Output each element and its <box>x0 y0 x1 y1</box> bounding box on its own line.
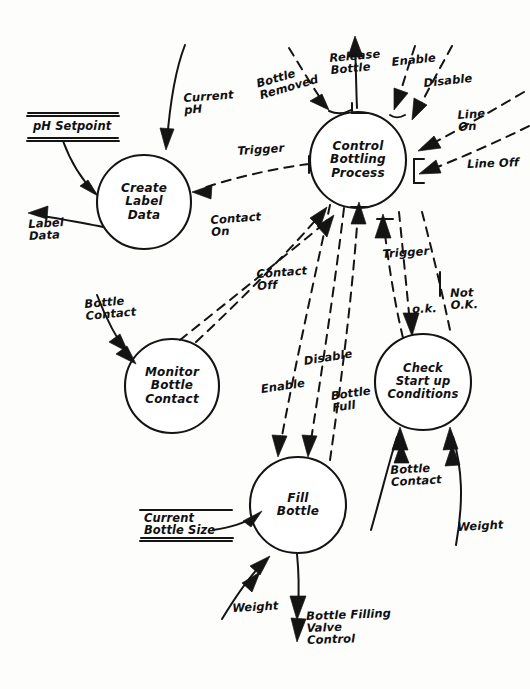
flow-trigger-to-create-label <box>192 156 309 199</box>
flow-label-release-bottle: Release Bottle <box>329 48 382 77</box>
flow-label-label-data: Label Data <box>28 216 65 242</box>
process-label-monitor-bottle-contact: Monitor Bottle Contact <box>125 366 219 406</box>
flow-bottle-full <box>330 202 367 460</box>
store-label-ph-setpoint: pH Setpoint <box>33 120 111 132</box>
dataflow-diagram-canvas: Create Label Data Control Bottling Proce… <box>0 0 530 689</box>
flow-label-line-off: Line Off <box>467 156 519 170</box>
process-label-check-startup-conditions: Check Start up Conditions <box>373 362 473 401</box>
flow-current-ph <box>160 45 185 150</box>
flow-label-contact-off: Contact Off <box>256 264 308 292</box>
process-label-create-label-data: Create Label Data <box>97 182 191 222</box>
flow-label-bottle-filling-valve-control: Bottle Filling Valve Control <box>306 607 392 647</box>
flow-disable-fill <box>302 208 344 457</box>
flow-ph-setpoint <box>63 141 98 196</box>
flow-enable-fill <box>272 205 330 457</box>
flow-label-current-ph: Current pH <box>183 89 235 117</box>
flow-label-weight-fill: Weight <box>232 600 279 615</box>
flow-label-trigger-to-create-label: Trigger <box>237 142 285 157</box>
flow-trigger-to-check <box>375 214 403 338</box>
flow-bottle-filling-valve <box>290 554 306 642</box>
flow-ok <box>399 212 419 336</box>
flow-label-ok: o.k. <box>412 302 437 315</box>
flow-label-not-ok: Not O.K. <box>450 286 478 311</box>
flow-label-line-on: Line On <box>457 107 486 133</box>
flow-label-contact-on: Contact On <box>210 210 262 238</box>
flow-label-bottle-contact-check: Bottle Contact <box>390 461 442 488</box>
flow-label-weight-check: Weight <box>457 519 504 534</box>
flow-label-bottle-contact-monitor: Bottle Contact <box>84 294 137 323</box>
store-label-current-bottle-size: Current Bottle Size <box>144 512 215 537</box>
process-label-fill-bottle: Fill Bottle <box>250 492 346 519</box>
process-label-control-bottling-process: Control Bottling Process <box>310 140 406 180</box>
flow-label-trigger-to-check: Trigger <box>382 245 430 260</box>
dataflow-diagram-svg <box>0 0 530 689</box>
